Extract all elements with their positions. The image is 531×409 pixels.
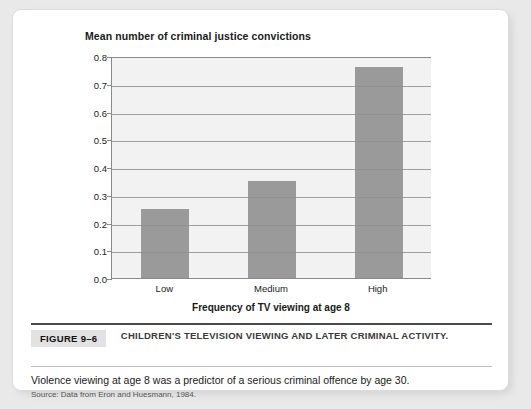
y-axis-tick-label: 0.5: [81, 135, 107, 146]
y-axis-tick-label: 0.6: [81, 107, 107, 118]
y-axis-tick-label: 0.4: [81, 163, 107, 174]
figure-caption-row: FIGURE 9–6 CHILDREN'S TELEVISION VIEWING…: [31, 330, 492, 348]
y-axis-tick-label: 0.3: [81, 190, 107, 201]
gridline: [112, 252, 431, 253]
bar: [355, 67, 403, 278]
y-axis-tick-label: 0.0: [81, 274, 107, 285]
gridline: [112, 86, 431, 87]
x-axis-tick-label: Medium: [231, 283, 311, 294]
y-axis-tick-label: 0.2: [81, 218, 107, 229]
caption-divider-rule: [31, 366, 492, 367]
caption-body-text: Violence viewing at age 8 was a predicto…: [31, 373, 492, 387]
caption-top-rule: [31, 323, 492, 325]
gridline: [112, 169, 431, 170]
figure-number-badge: FIGURE 9–6: [31, 330, 106, 347]
x-axis-tick-labels: LowMediumHigh: [111, 283, 431, 299]
x-axis-title: Frequency of TV viewing at age 8: [111, 302, 431, 313]
gridline: [112, 141, 431, 142]
caption-source-text: Source: Data from Eron and Huesmann, 198…: [31, 390, 492, 399]
y-axis-tick-label: 0.1: [81, 246, 107, 257]
y-axis-tick-label: 0.7: [81, 79, 107, 90]
gridline: [112, 225, 431, 226]
x-axis-tick-label: High: [338, 283, 418, 294]
chart-title: Mean number of criminal justice convicti…: [85, 30, 311, 42]
x-axis-tick-label: Low: [124, 283, 204, 294]
y-axis-tick-mark: [107, 279, 112, 280]
bar: [248, 181, 296, 278]
bar-chart: Mean number of criminal justice convicti…: [13, 10, 510, 310]
gridline: [112, 114, 431, 115]
gridline: [112, 197, 431, 198]
figure-card: Mean number of criminal justice convicti…: [12, 9, 509, 391]
figure-caption-title: CHILDREN'S TELEVISION VIEWING AND LATER …: [121, 330, 473, 343]
y-axis-tick-labels: 0.00.10.20.30.40.50.60.70.8: [77, 57, 107, 279]
plot-area: [111, 57, 431, 279]
figure-page: Mean number of criminal justice convicti…: [0, 0, 531, 409]
y-axis-tick-label: 0.8: [81, 52, 107, 63]
bar: [141, 209, 189, 278]
bar-series: [112, 58, 431, 278]
